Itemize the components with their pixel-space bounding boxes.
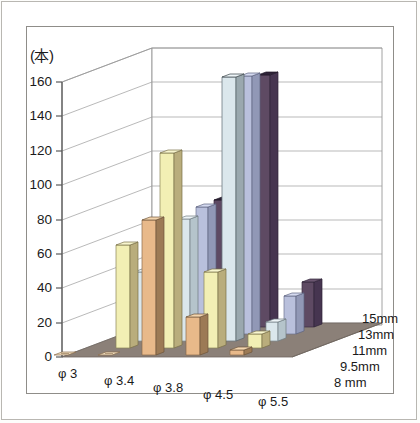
y-tick-60: 60 bbox=[18, 246, 52, 261]
y-tick-20: 20 bbox=[18, 315, 52, 330]
y-axis-unit-label: (本) bbox=[30, 44, 54, 65]
z-label-9.5mm: 9.5mm bbox=[340, 359, 380, 374]
y-tick-120: 120 bbox=[18, 143, 52, 158]
bar-9.5mm-phi5.5 bbox=[248, 331, 270, 348]
y-tick-0: 0 bbox=[18, 349, 52, 364]
x-label-phi3.8: φ 3.8 bbox=[153, 380, 183, 395]
y-tick-160: 160 bbox=[18, 74, 52, 89]
z-label-11mm: 11mm bbox=[352, 343, 387, 358]
z-label-8mm: 8 mm bbox=[334, 375, 367, 390]
bar-9.5mm-phi3.4 bbox=[116, 242, 138, 348]
x-label-phi3: φ 3 bbox=[58, 366, 77, 381]
y-tick-140: 140 bbox=[18, 108, 52, 123]
bar-8mm-phi3.8 bbox=[142, 217, 164, 355]
y-tick-marks bbox=[56, 82, 62, 357]
x-label-phi4.5: φ 4.5 bbox=[203, 387, 233, 402]
y-tick-100: 100 bbox=[18, 177, 52, 192]
z-label-15mm: 15mm bbox=[362, 311, 398, 326]
x-label-phi3.4: φ 3.4 bbox=[104, 373, 134, 388]
bar-15mm-phi4.5 bbox=[258, 72, 278, 327]
bar-13mm-phi5.5 bbox=[284, 293, 304, 334]
chart-screenshot: (本) 160 140 120 100 80 60 40 20 0 φ 3 φ … bbox=[0, 0, 420, 423]
y-tick-40: 40 bbox=[18, 280, 52, 295]
y-tick-80: 80 bbox=[18, 212, 52, 227]
bar-8mm-phi4.5 bbox=[186, 314, 208, 355]
z-label-13mm: 13mm bbox=[358, 327, 394, 342]
bar-15mm-phi5.5 bbox=[302, 279, 322, 327]
x-label-phi5.5: φ 5.5 bbox=[258, 394, 288, 409]
